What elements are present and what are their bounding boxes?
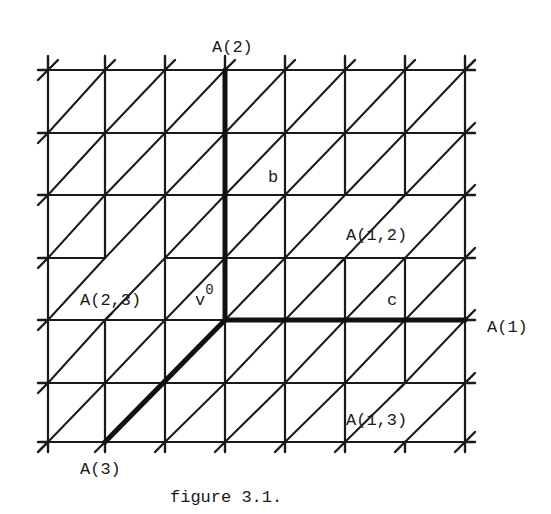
grid-line-diagonal (165, 383, 225, 442)
tick-right-diag (465, 123, 475, 133)
tick-left-diag (38, 133, 48, 143)
tick-top-diag (345, 60, 355, 70)
tick-right-diag (465, 60, 475, 70)
grid-line-diagonal (225, 383, 285, 442)
grid-line-diagonal (345, 133, 405, 195)
grid-line-diagonal (345, 320, 405, 383)
grid-line-diagonal (48, 320, 105, 383)
grid-line-diagonal (405, 133, 465, 195)
label-a1: A(1) (487, 318, 528, 337)
tick-bottom-diag (335, 442, 345, 452)
label-a12: A(1,2) (346, 226, 407, 245)
grid-line-diagonal (405, 70, 465, 133)
grid-line-diagonal (165, 70, 225, 133)
tick-bottom-diag (455, 442, 465, 452)
tick-right-diag (465, 432, 475, 442)
grid-line-diagonal (105, 258, 165, 320)
tick-bottom-diag (155, 442, 165, 452)
tick-bottom-diag (215, 442, 225, 452)
grid-line-diagonal (285, 258, 345, 320)
tick-top-diag (165, 60, 175, 70)
triangulated-lattice-figure: A(2) A(1) A(3) A(1,2) A(1,3) A(2,3) b c … (0, 0, 551, 514)
label-v-superscript: 0 (205, 282, 213, 298)
grid-line-diagonal (48, 258, 105, 320)
grid-line-diagonal (405, 383, 465, 442)
grid-line-diagonal (48, 383, 105, 442)
grid-line-diagonal (105, 320, 165, 383)
grid-line-diagonal (285, 133, 345, 195)
grid-line-diagonal (105, 133, 165, 195)
grid-line-diagonal (405, 258, 465, 320)
label-b: b (268, 168, 278, 187)
label-v: v (195, 291, 205, 310)
grid-line-diagonal (225, 258, 285, 320)
figure-caption: figure 3.1. (170, 488, 282, 507)
tick-top-diag (405, 60, 415, 70)
label-a2: A(2) (212, 38, 253, 57)
tick-left-diag (38, 383, 48, 393)
grid-line-diagonal (225, 320, 285, 383)
label-a23: A(2,3) (80, 291, 141, 310)
tick-right-diag (465, 248, 475, 258)
tick-left-diag (38, 258, 48, 268)
grid-line-diagonal (225, 195, 285, 258)
tick-top-diag (105, 60, 115, 70)
grid-line-diagonal (105, 195, 165, 258)
tick-left-diag (38, 70, 48, 80)
tick-bottom-diag (275, 442, 285, 452)
grid-line-diagonal (48, 133, 105, 195)
label-a13: A(1,3) (346, 411, 407, 430)
grid-line-diagonal (285, 70, 345, 133)
tick-right-diag (465, 185, 475, 195)
grid-line-diagonal (345, 258, 405, 320)
tick-right-diag (465, 373, 475, 383)
grid-line-diagonal (285, 383, 345, 442)
grid-line-diagonal (405, 195, 465, 258)
grid-line-diagonal (48, 70, 105, 133)
grid-line-diagonal (345, 70, 405, 133)
tick-left-diag (38, 195, 48, 205)
tick-left-diag (38, 442, 48, 452)
grid-line-diagonal (405, 320, 465, 383)
label-c: c (387, 291, 397, 310)
grid-line-diagonal (165, 195, 225, 258)
grid-line-diagonal (48, 195, 105, 258)
grid-line-diagonal (105, 70, 165, 133)
grid-line-diagonal (225, 70, 285, 133)
grid-line-diagonal (165, 133, 225, 195)
grid-line-diagonal (165, 258, 225, 320)
grid-line-diagonal (285, 195, 345, 258)
label-a3: A(3) (80, 460, 121, 479)
tick-left-diag (38, 320, 48, 330)
tick-top-diag (285, 60, 295, 70)
tick-bottom-diag (395, 442, 405, 452)
grid-line-diagonal (285, 320, 345, 383)
tick-top-diag (48, 60, 58, 70)
